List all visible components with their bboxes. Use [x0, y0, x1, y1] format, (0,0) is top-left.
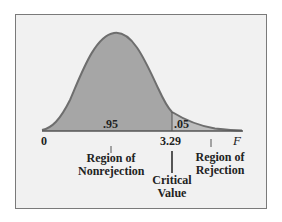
label-line: Nonrejection — [78, 165, 144, 178]
rejection-region-label: Region of Rejection — [190, 151, 250, 177]
origin-label: 0 — [41, 134, 47, 149]
label-line: Value — [147, 187, 197, 200]
label-line: Rejection — [190, 164, 250, 177]
f-distribution-plot — [0, 0, 282, 222]
nonrejection-region-label: Region of Nonrejection — [78, 152, 144, 178]
rejection-area-label: .05 — [174, 117, 189, 132]
nonrejection-area-label: .95 — [103, 117, 118, 132]
critical-value-label: 3.29 — [160, 134, 181, 149]
critical-value-caption: Critical Value — [147, 174, 197, 200]
f-axis-label: F — [233, 133, 241, 149]
